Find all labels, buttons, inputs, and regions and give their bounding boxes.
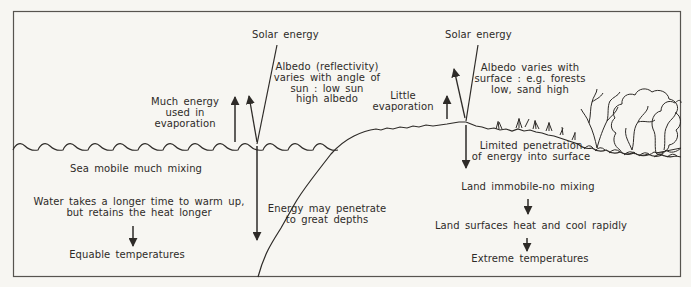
label-water-warms-slowly: Water takes a longer time to warm up, bu… <box>34 197 245 219</box>
label-energy-great-depths: Energy may penetrate to great depths <box>268 204 386 226</box>
label-solar-energy-land: Solar energy <box>445 30 512 41</box>
label-line: evaporation <box>372 102 433 113</box>
coastline <box>258 122 681 277</box>
label-much-energy-evaporation: Much energy used in evaporation <box>151 97 219 129</box>
label-little-evaporation: Little evaporation <box>372 91 433 113</box>
trees-icon <box>581 89 681 157</box>
label-line: evaporation <box>151 119 219 130</box>
label-line: used in <box>151 108 219 119</box>
label-line: varies with angle of <box>274 73 380 84</box>
sea-wave-line <box>13 144 338 151</box>
reflected-energy-arrow-sea <box>249 96 257 142</box>
label-albedo-sea: Albedo (reflectivity) varies with angle … <box>274 62 380 105</box>
label-limited-penetration: Limited penetration of energy into surfa… <box>472 141 590 163</box>
label-albedo-land: Albedo varies with surface : e.g. forest… <box>475 63 586 95</box>
label-line: surface : e.g. forests <box>475 74 586 85</box>
label-line: low, sand high <box>475 85 586 96</box>
label-solar-energy-sea: Solar energy <box>252 30 319 41</box>
sea-land-heating-diagram: Solar energy Albedo (reflectivity) varie… <box>0 0 691 287</box>
label-line: high albedo <box>274 94 380 105</box>
reflected-energy-arrow-land <box>454 69 465 118</box>
label-extreme-temperatures: Extreme temperatures <box>471 254 588 265</box>
label-line: of energy into surface <box>472 152 590 163</box>
label-land-heat-cool: Land surfaces heat and cool rapidly <box>435 221 627 232</box>
label-line: to great depths <box>268 215 386 226</box>
label-land-immobile: Land immobile-no mixing <box>461 182 594 193</box>
label-equable-temperatures: Equable temperatures <box>69 250 185 261</box>
label-sea-mobile: Sea mobile much mixing <box>70 164 202 175</box>
label-line: but retains the heat longer <box>34 208 245 219</box>
